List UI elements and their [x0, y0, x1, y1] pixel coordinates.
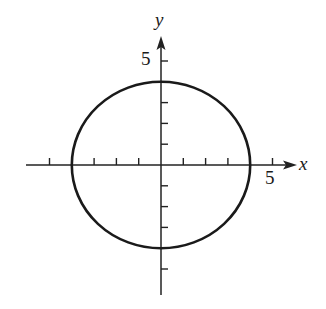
axes — [26, 36, 297, 295]
y-axis-label: y — [153, 9, 164, 30]
coordinate-plane: y 5 x 5 — [0, 0, 326, 309]
x-tick-label-5: 5 — [265, 167, 275, 188]
y-tick-label-5: 5 — [141, 48, 151, 69]
x-axis-label: x — [298, 153, 308, 174]
